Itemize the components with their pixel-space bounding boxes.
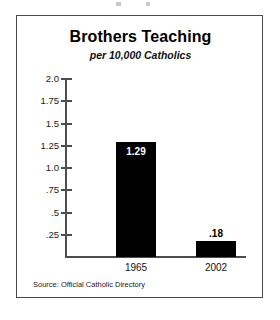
y-axis-tick-mark <box>61 145 72 147</box>
y-axis-tick-label: 1.75 <box>13 96 59 105</box>
plot-area: 2.01.751.51.251.0.75.5.25 1.29.18 196520… <box>17 16 264 299</box>
bar-2002 <box>196 241 236 257</box>
y-axis-tick-mark <box>61 212 72 214</box>
cropped-text-artifact <box>116 2 121 6</box>
y-axis-tick-mark <box>61 123 72 125</box>
cropped-text-artifact <box>146 2 150 6</box>
y-axis-tick-mark <box>61 234 72 236</box>
chart-figure: Brothers Teaching per 10,000 Catholics 2… <box>0 0 280 320</box>
y-axis-tick-label: 1.0 <box>13 163 59 172</box>
y-axis-tick-mark <box>61 100 72 102</box>
y-axis-tick-mark <box>61 189 72 191</box>
y-axis-tick-label: 1.25 <box>13 141 59 150</box>
bar-value-label: .18 <box>193 228 239 239</box>
y-axis-tick-mark <box>61 78 72 80</box>
y-axis-tick-label: .75 <box>13 185 59 194</box>
y-axis-tick-label: 1.5 <box>13 119 59 128</box>
x-axis-label-2002: 2002 <box>186 262 246 273</box>
x-axis-label-1965: 1965 <box>106 262 166 273</box>
y-axis-tick-label: .5 <box>13 208 59 217</box>
chart-frame: Brothers Teaching per 10,000 Catholics 2… <box>16 15 263 298</box>
y-axis-tick-mark <box>61 167 72 169</box>
bar-value-label: 1.29 <box>113 146 159 157</box>
y-axis-tick-label: .25 <box>13 230 59 239</box>
y-axis-tick-label: 2.0 <box>13 74 59 83</box>
bar-1965 <box>116 142 156 257</box>
source-note: Source: Official Catholic Directory <box>33 280 145 289</box>
